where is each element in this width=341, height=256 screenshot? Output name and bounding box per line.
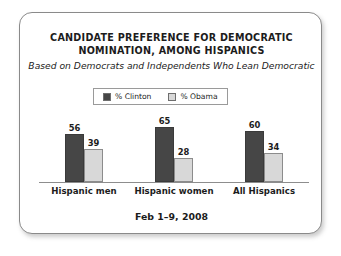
category-label-all-hispanics: All Hispanics bbox=[219, 186, 309, 196]
bar-wrap-men-obama: 39 bbox=[84, 118, 103, 182]
chart-title-line-2: NOMINATION, AMONG HISPANICS bbox=[20, 45, 323, 58]
chart-title-line-1: CANDIDATE PREFERENCE FOR DEMOCRATIC bbox=[20, 32, 323, 45]
bar-all-obama bbox=[264, 153, 283, 182]
bar-women-obama bbox=[174, 158, 193, 182]
axis-baseline bbox=[39, 182, 309, 183]
bar-men-obama bbox=[84, 149, 103, 182]
screenshot-root: CANDIDATE PREFERENCE FOR DEMOCRATIC NOMI… bbox=[0, 0, 341, 256]
bar-value-women-obama: 28 bbox=[169, 147, 199, 157]
bar-group-hispanic-women: 65 28 bbox=[129, 118, 219, 182]
plot-area: 56 39 65 28 bbox=[39, 117, 309, 183]
legend-label-clinton: % Clinton bbox=[115, 92, 151, 101]
bar-group-hispanic-men: 56 39 bbox=[39, 118, 129, 182]
chart-footer-date: Feb 1–9, 2008 bbox=[20, 211, 323, 222]
bar-wrap-women-obama: 28 bbox=[174, 118, 193, 182]
bar-group-all-hispanics: 60 34 bbox=[219, 118, 309, 182]
bar-value-men-obama: 39 bbox=[79, 138, 109, 148]
bar-groups: 56 39 65 28 bbox=[39, 118, 309, 182]
chart-legend: % Clinton % Obama bbox=[93, 88, 228, 105]
bar-value-all-obama: 34 bbox=[259, 142, 289, 152]
legend-item-obama: % Obama bbox=[168, 92, 217, 101]
title-block: CANDIDATE PREFERENCE FOR DEMOCRATIC NOMI… bbox=[20, 32, 323, 72]
category-labels: Hispanic men Hispanic women All Hispanic… bbox=[39, 186, 309, 196]
bar-wrap-men-clinton: 56 bbox=[65, 118, 84, 182]
category-label-hispanic-men: Hispanic men bbox=[39, 186, 129, 196]
legend-swatch-obama-icon bbox=[168, 93, 176, 101]
chart-card: CANDIDATE PREFERENCE FOR DEMOCRATIC NOMI… bbox=[19, 12, 322, 234]
legend-label-obama: % Obama bbox=[180, 92, 217, 101]
bar-wrap-all-obama: 34 bbox=[264, 118, 283, 182]
category-label-hispanic-women: Hispanic women bbox=[129, 186, 219, 196]
legend-swatch-clinton-icon bbox=[103, 93, 111, 101]
legend-item-clinton: % Clinton bbox=[103, 92, 151, 101]
chart-subtitle: Based on Democrats and Independents Who … bbox=[20, 60, 323, 72]
bar-all-clinton bbox=[245, 131, 264, 182]
